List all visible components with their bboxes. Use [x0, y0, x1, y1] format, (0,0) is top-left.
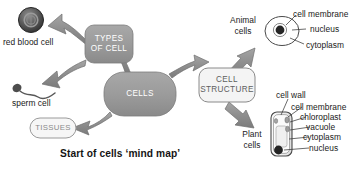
plant-part-cell-membrane-label: cell membrane: [291, 102, 346, 112]
animal-part-nucleus-label: nucleus: [310, 24, 339, 34]
node-tissues-shape[interactable]: [30, 118, 76, 138]
animal-cells-line1: Animal: [230, 15, 256, 25]
plant-cells-line2: cells: [244, 140, 261, 150]
plant-cells-label: Plant cells: [236, 129, 268, 150]
animal-part-cell-membrane-label: cell membrane: [293, 9, 348, 19]
figure-caption: Start of cells ‘mind map’: [60, 148, 180, 159]
node-types-of-cell-shape[interactable]: [85, 25, 133, 63]
sperm-cell-label: sperm cell: [12, 98, 51, 108]
plant-part-chloroplast-label: chloroplast: [300, 112, 341, 122]
animal-cell-drawing: [265, 15, 306, 46]
plant-cells-line1: Plant: [242, 129, 261, 139]
red-blood-cell-drawing: [19, 8, 44, 33]
mind-map-figure: TYPES OF CELL CELLS CELL STRUCTURE TISSU…: [0, 0, 356, 175]
plant-part-cell-wall-label: cell wall: [276, 90, 306, 100]
node-cells-shape[interactable]: [104, 72, 176, 116]
animal-cells-line2: cells: [235, 26, 252, 36]
plant-part-nucleus-label: nucleus: [309, 143, 338, 153]
arrow-cells-to-tissues: [72, 112, 112, 135]
red-blood-cell-label: red blood cell: [3, 37, 53, 47]
animal-part-cytoplasm-label: cytoplasm: [306, 40, 344, 50]
node-cell-structure-shape[interactable]: [199, 68, 255, 102]
plant-part-cytoplasm-label: cytoplasm: [303, 132, 341, 142]
plant-part-vacuole-label: vacuole: [306, 122, 335, 132]
arrow-types-to-sperm: [42, 60, 86, 88]
animal-cells-label: Animal cells: [225, 15, 261, 36]
arrow-structure-to-plant: [225, 102, 254, 128]
arrow-types-to-rbc: [48, 14, 88, 46]
